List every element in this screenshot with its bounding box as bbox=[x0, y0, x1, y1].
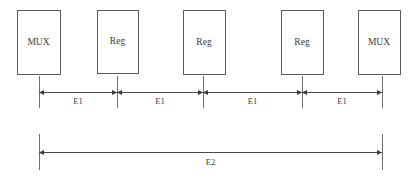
arrow-head-icon bbox=[112, 90, 117, 95]
block-reg-2[interactable]: Reg bbox=[98, 11, 139, 74]
dimension-e1-1: E1 bbox=[39, 90, 117, 106]
diagram-canvas: MUXRegRegRegMUX E1E1E1E1 E2 bbox=[0, 0, 417, 179]
dimension-e1-3: E1 bbox=[203, 90, 302, 106]
block-label: Reg bbox=[294, 37, 310, 47]
dimension-row-e2: E2 bbox=[39, 150, 382, 167]
dimension-label: E1 bbox=[337, 96, 346, 106]
block-mux-5[interactable]: MUX bbox=[359, 11, 401, 75]
arrow-head-icon bbox=[198, 90, 203, 95]
extension-line-group bbox=[40, 76, 383, 170]
dimension-label: E1 bbox=[155, 96, 164, 106]
arrow-head-icon bbox=[377, 90, 382, 95]
block-label: MUX bbox=[27, 37, 49, 47]
dimension-e1-2: E1 bbox=[117, 90, 203, 106]
dimension-label: E2 bbox=[206, 157, 215, 167]
block-reg-4[interactable]: Reg bbox=[282, 11, 324, 75]
arrow-head-icon bbox=[377, 150, 382, 155]
dimension-e1-4: E1 bbox=[302, 90, 382, 106]
pipeline-dimension-diagram: MUXRegRegRegMUX E1E1E1E1 E2 bbox=[0, 0, 417, 179]
block-label: MUX bbox=[368, 37, 390, 47]
block-group: MUXRegRegRegMUX bbox=[18, 11, 401, 75]
dimension-label: E1 bbox=[248, 96, 257, 106]
dimension-label: E1 bbox=[73, 96, 82, 106]
block-mux-1[interactable]: MUX bbox=[18, 11, 61, 75]
block-label: Reg bbox=[196, 37, 212, 47]
dimension-e2-1: E2 bbox=[39, 150, 382, 167]
block-label: Reg bbox=[110, 36, 126, 46]
arrow-head-icon bbox=[297, 90, 302, 95]
block-reg-3[interactable]: Reg bbox=[184, 11, 226, 75]
dimension-row-e1: E1E1E1E1 bbox=[39, 90, 382, 106]
